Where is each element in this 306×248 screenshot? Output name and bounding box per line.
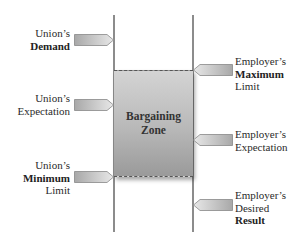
employer-desired-arrow	[193, 199, 233, 211]
label-line: Limit	[10, 184, 70, 197]
label-line-bold: Demand	[30, 40, 70, 52]
label-line: Expectation	[235, 141, 305, 154]
bargaining-zone: Bargaining Zone	[114, 70, 193, 177]
label-line: Employer’s	[235, 128, 305, 141]
label-line-bold: Result	[235, 214, 265, 226]
bargaining-zone-label: Bargaining Zone	[114, 109, 193, 137]
employer-expectation-label: Employer’s Expectation	[235, 128, 305, 153]
union-demand-label: Union’s Demand	[20, 27, 70, 52]
label-line: Employer’s	[235, 189, 305, 202]
union-minimum-label: Union’s Minimum Limit	[10, 159, 70, 197]
label-line-bold: Maximum	[235, 68, 284, 80]
label-line: Union’s	[5, 92, 70, 105]
label-line: Limit	[235, 80, 305, 93]
union-minimum-arrow	[74, 171, 114, 183]
union-expectation-arrow	[74, 99, 114, 111]
label-line: Expectation	[5, 105, 70, 118]
label-line-bold: Minimum	[23, 172, 70, 184]
zone-label-line2: Zone	[114, 123, 193, 137]
label-line: Desired	[235, 202, 305, 215]
employer-expectation-arrow	[193, 134, 233, 146]
employer-maximum-label: Employer’s Maximum Limit	[235, 55, 305, 93]
zone-label-line1: Bargaining	[114, 109, 193, 123]
union-expectation-label: Union’s Expectation	[5, 92, 70, 117]
employer-maximum-arrow	[193, 64, 233, 76]
employer-desired-label: Employer’s Desired Result	[235, 189, 305, 227]
label-line: Union’s	[20, 27, 70, 40]
union-demand-arrow	[74, 34, 114, 46]
label-line: Employer’s	[235, 55, 305, 68]
label-line: Union’s	[10, 159, 70, 172]
